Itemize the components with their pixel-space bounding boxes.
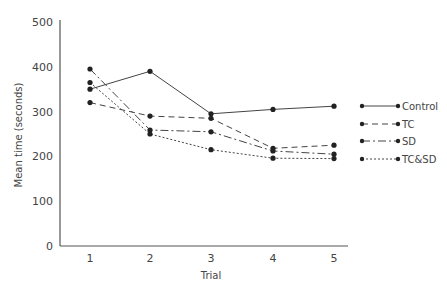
- legend-marker: [396, 104, 400, 108]
- legend-marker: [396, 157, 400, 161]
- data-point-marker: [208, 147, 213, 152]
- series-line-tc: [90, 103, 334, 149]
- axes: 010020030040050012345TrialMean time (sec…: [13, 16, 348, 281]
- data-point-marker: [87, 80, 92, 85]
- y-tick-label: 300: [32, 106, 53, 119]
- legend-marker: [360, 122, 364, 126]
- y-tick-label: 400: [32, 61, 53, 74]
- data-point-marker: [87, 87, 92, 92]
- data-point-marker: [208, 116, 213, 121]
- y-tick-label: 200: [32, 150, 53, 163]
- x-tick-label: 4: [270, 252, 277, 265]
- legend-label: SD: [402, 136, 416, 147]
- data-point-marker: [147, 114, 152, 119]
- data-point-marker: [331, 104, 336, 109]
- line-chart: 010020030040050012345TrialMean time (sec…: [0, 0, 447, 293]
- legend-marker: [396, 122, 400, 126]
- data-point-marker: [331, 143, 336, 148]
- data-point-marker: [208, 111, 213, 116]
- data-point-marker: [270, 148, 275, 153]
- series-lines: [87, 66, 336, 161]
- x-tick-label: 5: [331, 252, 338, 265]
- legend-label: TC&SD: [401, 154, 437, 165]
- data-point-marker: [147, 69, 152, 74]
- data-point-marker: [87, 66, 92, 71]
- legend-marker: [360, 104, 364, 108]
- y-tick-label: 100: [32, 195, 53, 208]
- y-axis-title: Mean time (seconds): [13, 82, 24, 187]
- series-line-control: [90, 71, 334, 114]
- x-tick-label: 3: [208, 252, 215, 265]
- data-point-marker: [270, 107, 275, 112]
- data-point-marker: [147, 131, 152, 136]
- legend-marker: [396, 139, 400, 143]
- data-point-marker: [87, 100, 92, 105]
- y-tick-label: 500: [32, 16, 53, 29]
- legend-label: Control: [402, 101, 438, 112]
- x-tick-label: 1: [87, 252, 94, 265]
- x-tick-label: 2: [147, 252, 154, 265]
- legend-label: TC: [401, 119, 415, 130]
- x-axis-title: Trial: [200, 270, 221, 281]
- legend-marker: [360, 157, 364, 161]
- data-point-marker: [270, 156, 275, 161]
- legend: ControlTCSDTC&SD: [360, 101, 438, 165]
- data-point-marker: [331, 156, 336, 161]
- legend-marker: [360, 139, 364, 143]
- y-tick-label: 0: [46, 240, 53, 253]
- data-point-marker: [208, 129, 213, 134]
